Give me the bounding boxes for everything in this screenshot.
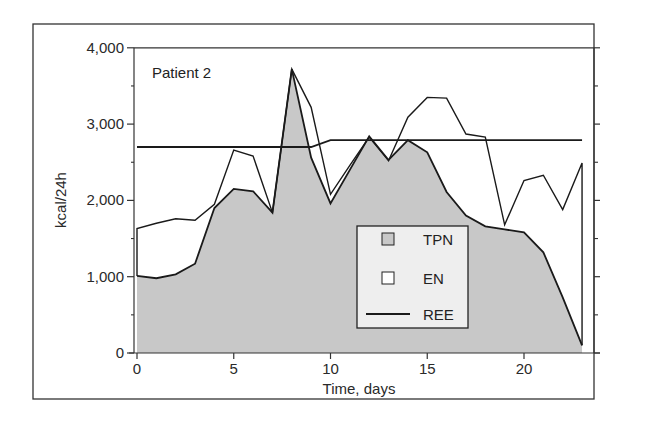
legend-label-ree: REE xyxy=(423,306,454,323)
y-tick-label: 0 xyxy=(116,344,124,361)
y-tick-label: 4,000 xyxy=(86,39,124,56)
ree-line xyxy=(137,140,582,147)
x-axis-title: Time, days xyxy=(323,380,396,397)
chart: 01,0002,0003,0004,00005101520 Patient 2 … xyxy=(0,0,649,438)
y-tick-label: 2,000 xyxy=(86,191,124,208)
x-tick-label: 20 xyxy=(516,360,533,377)
x-tick-label: 0 xyxy=(133,360,141,377)
legend-label-en: EN xyxy=(423,270,444,287)
y-tick-label: 3,000 xyxy=(86,115,124,132)
en-legend-swatch xyxy=(382,272,394,284)
tpn-legend-swatch xyxy=(382,233,394,245)
x-tick-label: 15 xyxy=(419,360,436,377)
legend: TPN EN REE xyxy=(357,226,468,328)
x-tick-label: 5 xyxy=(230,360,238,377)
x-tick-label: 10 xyxy=(322,360,339,377)
legend-label-tpn: TPN xyxy=(423,231,453,248)
y-tick-label: 1,000 xyxy=(86,268,124,285)
panel-label: Patient 2 xyxy=(152,64,211,81)
y-axis-title: kcal/24h xyxy=(52,172,69,228)
